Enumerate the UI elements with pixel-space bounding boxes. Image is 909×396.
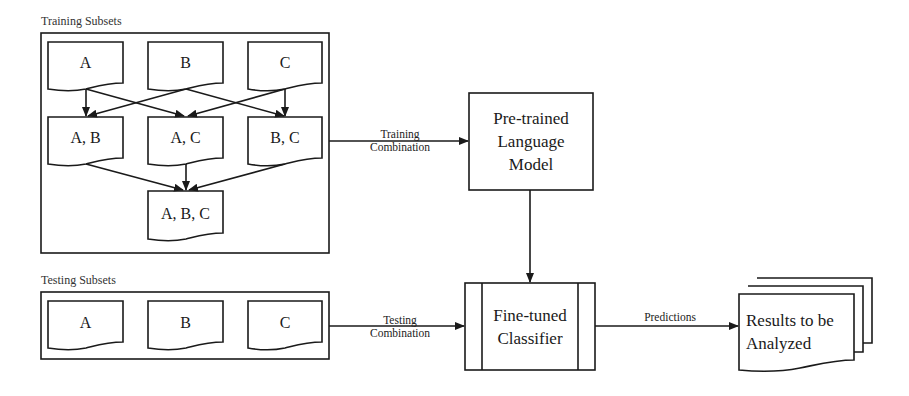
arrow-bc-to-abc	[189, 164, 285, 190]
train-doc-a: A	[48, 54, 123, 72]
predictions-label: Predictions	[630, 311, 710, 324]
arrow-ab-to-abc	[86, 164, 183, 190]
box-text-line: Results to be	[746, 309, 834, 332]
training-combination-label: Training Combination	[360, 128, 440, 154]
edge-label-line: Combination	[360, 141, 440, 154]
test-doc-b: B	[148, 314, 223, 332]
results-text: Results to be Analyzed	[746, 309, 834, 355]
box-text-line: Classifier	[482, 327, 578, 350]
train-doc-bc: B, C	[248, 129, 322, 147]
train-doc-c: C	[248, 54, 322, 72]
box-text-line: Pre-trained	[469, 107, 593, 130]
box-text-line: Fine-tuned	[482, 304, 578, 327]
training-subsets-label: Training Subsets	[41, 14, 122, 29]
edge-label-line: Training	[360, 128, 440, 141]
edge-label-line: Combination	[360, 327, 440, 340]
classifier-text: Fine-tuned Classifier	[482, 304, 578, 350]
test-doc-c: C	[248, 314, 322, 332]
train-doc-b: B	[148, 54, 223, 72]
testing-subsets-label: Testing Subsets	[41, 273, 116, 288]
testing-combination-label: Testing Combination	[360, 314, 440, 340]
train-doc-ac: A, C	[148, 129, 223, 147]
pretrained-model-text: Pre-trained Language Model	[469, 107, 593, 176]
edge-label-line: Testing	[360, 314, 440, 327]
box-text-line: Language	[469, 130, 593, 153]
train-doc-abc: A, B, C	[148, 205, 223, 223]
box-text-line: Model	[469, 153, 593, 176]
train-doc-ab: A, B	[48, 129, 123, 147]
test-doc-a: A	[48, 314, 123, 332]
box-text-line: Analyzed	[746, 332, 834, 355]
